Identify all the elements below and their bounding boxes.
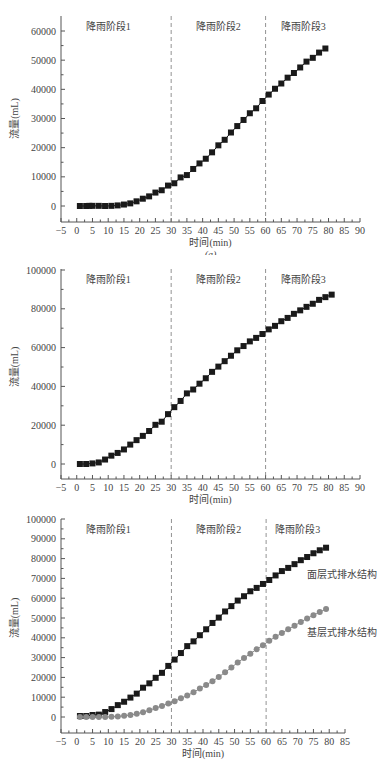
data-point-square [203, 156, 209, 162]
x-tick-label: 65 [276, 482, 286, 493]
x-tick-label: −5 [56, 736, 67, 747]
data-point-square [266, 326, 272, 332]
data-point-square [259, 331, 265, 337]
x-tick-label: 50 [229, 482, 239, 493]
series-line [80, 609, 326, 717]
x-tick-label: 0 [74, 225, 79, 236]
x-tick-label: 80 [324, 482, 334, 493]
flow-chart-c: 0100002000030000400005000060000700008000… [0, 505, 388, 760]
data-point-square [140, 196, 146, 202]
y-tick-label: 40000 [31, 84, 56, 95]
data-point-circle [140, 709, 146, 715]
data-point-circle [260, 642, 266, 648]
data-point-square [146, 428, 152, 434]
x-tick-label: 45 [213, 225, 223, 236]
data-point-square [323, 545, 329, 551]
data-point-square [247, 338, 253, 344]
data-point-circle [172, 698, 178, 704]
x-tick-label: 15 [119, 736, 129, 747]
data-point-square [316, 50, 322, 56]
data-point-square [196, 381, 202, 387]
x-tick-label: 85 [339, 225, 349, 236]
x-tick-label: 70 [292, 225, 302, 236]
y-tick-label: 10000 [31, 692, 56, 703]
x-tick-label: 65 [277, 736, 287, 747]
data-point-square [292, 561, 298, 567]
data-point-square [329, 292, 335, 298]
data-point-circle [235, 660, 241, 666]
x-tick-label: 80 [324, 225, 334, 236]
x-tick-label: 25 [150, 225, 160, 236]
data-point-circle [216, 674, 222, 680]
x-tick-label: 5 [90, 482, 95, 493]
data-point-square [159, 187, 165, 193]
series-annotation: 面层式排水结构 [307, 568, 377, 580]
x-tick-label: 20 [135, 225, 145, 236]
x-tick-label: 35 [182, 482, 192, 493]
data-point-square [279, 568, 285, 574]
data-point-square [178, 174, 184, 180]
x-tick-label: 85 [340, 736, 350, 747]
data-point-square [234, 123, 240, 129]
x-tick-label: 15 [119, 482, 129, 493]
data-point-square [272, 86, 278, 92]
x-tick-label: 20 [135, 736, 145, 747]
data-point-square [196, 160, 202, 166]
x-tick-label: 75 [308, 736, 318, 747]
data-point-circle [209, 678, 215, 684]
data-point-square [209, 369, 215, 375]
data-point-circle [254, 646, 260, 652]
y-tick-label: 60000 [31, 593, 56, 604]
flow-chart-a: 0100002000030000400005000060000−50510152… [0, 0, 388, 255]
data-point-square [108, 203, 114, 209]
x-tick-label: 75 [308, 225, 318, 236]
x-tick-label: −5 [56, 482, 67, 493]
data-point-square [310, 301, 316, 307]
data-point-square [228, 603, 234, 609]
data-point-square [184, 172, 190, 178]
data-point-square [146, 680, 152, 686]
x-tick-label: 10 [103, 736, 113, 747]
data-point-square [291, 311, 297, 317]
data-point-square [297, 307, 303, 313]
data-point-circle [292, 623, 298, 629]
data-point-square [303, 59, 309, 65]
data-point-square [235, 598, 241, 604]
data-point-square [159, 419, 165, 425]
data-point-square [184, 390, 190, 396]
x-tick-label: 15 [119, 225, 129, 236]
data-point-square [190, 166, 196, 172]
x-axis-title: 时间(min) [182, 747, 224, 760]
y-tick-label: 40000 [31, 381, 56, 392]
data-point-square [266, 577, 272, 583]
y-tick-label: 60000 [31, 26, 56, 37]
x-axis-title: 时间(min) [189, 236, 231, 249]
x-tick-label: 10 [103, 482, 113, 493]
data-point-circle [310, 612, 316, 618]
data-point-circle [273, 634, 279, 640]
y-tick-label: 0 [51, 459, 56, 470]
data-point-square [209, 620, 215, 626]
data-point-square [134, 198, 140, 204]
x-tick-label: 40 [198, 482, 208, 493]
data-point-square [102, 203, 108, 209]
x-tick-label: 60 [261, 482, 271, 493]
data-point-circle [247, 651, 253, 657]
data-point-square [127, 695, 133, 701]
data-point-square [273, 572, 279, 578]
data-point-square [247, 588, 253, 594]
data-point-square [108, 453, 114, 459]
data-point-circle [83, 714, 89, 720]
data-point-square [260, 581, 266, 587]
data-point-circle [184, 693, 190, 699]
data-point-square [121, 202, 127, 208]
data-point-circle [178, 695, 184, 701]
data-point-square [89, 203, 95, 209]
stage-label: 降雨阶段3 [281, 20, 326, 32]
x-tick-label: 50 [229, 225, 239, 236]
data-point-square [222, 137, 228, 143]
data-point-circle [134, 711, 140, 717]
data-point-square [278, 81, 284, 87]
data-point-square [303, 304, 309, 310]
data-point-square [89, 460, 95, 466]
